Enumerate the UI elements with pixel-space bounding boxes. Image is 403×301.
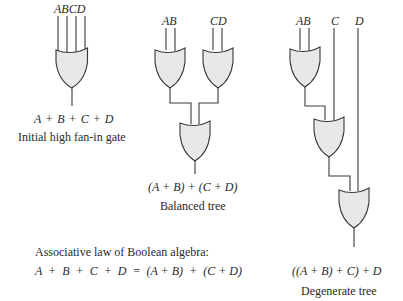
high-fan-in-expression: A + B + C + D	[34, 112, 113, 126]
associative-law-equation: A + B + C + D = (A + B) + (C + D)	[35, 264, 242, 278]
high-fan-in-inputs-label: ABCD	[54, 2, 85, 16]
degenerate-expression: ((A + B) + C) + D	[292, 264, 381, 278]
degenerate-ab-label: AB	[296, 14, 311, 28]
associative-law-title: Associative law of Boolean algebra:	[35, 245, 209, 259]
degenerate-caption: Degenerate tree	[301, 284, 377, 298]
high-fan-in-gate	[56, 16, 88, 106]
balanced-caption: Balanced tree	[160, 199, 226, 213]
degenerate-c-label: C	[331, 14, 339, 28]
degenerate-tree	[290, 28, 369, 247]
high-fan-in-caption: Initial high fan-in gate	[18, 130, 126, 144]
degenerate-d-label: D	[355, 14, 364, 28]
balanced-cd-label: CD	[210, 14, 227, 28]
balanced-tree	[155, 28, 233, 174]
balanced-ab-label: AB	[162, 14, 177, 28]
balanced-expression: (A + B) + (C + D)	[148, 180, 237, 194]
